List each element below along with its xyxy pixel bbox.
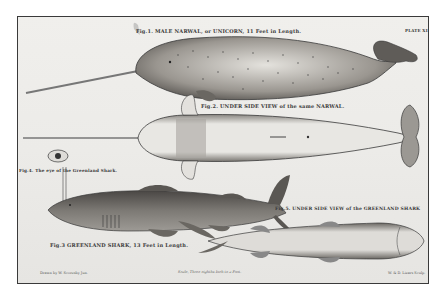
plate-number: PLATE XI: [405, 28, 428, 33]
footer-engraver-credit: W. & D. Lizars Sculp.: [388, 271, 425, 275]
narwhal-side-view: [26, 23, 417, 102]
footer-scale: Scale, Three eighths Inch to a Foot.: [178, 270, 241, 274]
engraving-plate: Fig.1. MALE NARWAL, or UNICORN, 11 Feet …: [17, 16, 429, 284]
figure-3-caption: Fig.3 GREENLAND SHARK, 13 Feet in Length…: [50, 242, 188, 248]
figure-5-caption: Fig.5. UNDER SIDE VIEW of the GREENLAND …: [275, 206, 420, 211]
figure-4-caption: Fig.4. The eye of the Greenland Shark.: [19, 168, 117, 173]
figure-2-caption: Fig.2. UNDER SIDE VIEW of the same NARWA…: [201, 103, 345, 109]
figure-1-caption: Fig.1. MALE NARWAL, or UNICORN, 11 Feet …: [136, 28, 301, 34]
shark-eye-figure: [48, 150, 68, 202]
footer-artist-credit: Drawn by W. Scoresby Jun.: [40, 271, 88, 275]
